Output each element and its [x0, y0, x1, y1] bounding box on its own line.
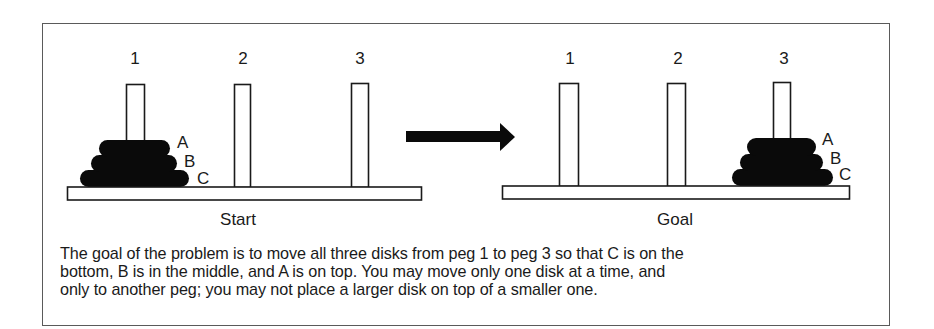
start-disk-label-a: A [177, 133, 189, 152]
start-peg-label-2: 2 [238, 49, 247, 68]
start-disk-a [99, 140, 170, 157]
goal-peg-1 [560, 84, 579, 187]
goal-peg-3 [774, 83, 791, 143]
start-peg-2 [235, 85, 251, 188]
goal-peg-2 [668, 84, 686, 187]
start-disk-b [91, 155, 177, 172]
start-panel: 1 2 3 A B C Start [68, 49, 422, 229]
goal-panel: 1 2 3 A B C Goal [503, 49, 852, 229]
caption-line-1: The goal of the problem is to move all t… [60, 244, 880, 262]
goal-peg-label-3: 3 [779, 49, 788, 68]
caption-line-2: bottom, B is in the middle, and A is on … [60, 262, 880, 280]
goal-base [503, 186, 850, 199]
goal-disk-a [747, 138, 816, 156]
start-peg-3 [352, 84, 369, 188]
start-peg-label-1: 1 [130, 49, 139, 68]
start-peg-label-3: 3 [355, 49, 364, 68]
goal-disk-c [732, 169, 833, 186]
goal-disk-label-a: A [822, 130, 834, 149]
figure-caption: The goal of the problem is to move all t… [60, 244, 880, 299]
goal-disk-b [740, 154, 823, 171]
goal-peg-label-2: 2 [673, 49, 682, 68]
start-disk-label-b: B [184, 152, 195, 171]
goal-label: Goal [657, 210, 693, 229]
start-disk-c [80, 170, 189, 187]
goal-disk-label-c: C [839, 165, 851, 184]
start-base [68, 187, 422, 200]
right-arrow-icon [406, 123, 515, 151]
caption-line-3: only to another peg; you may not place a… [60, 280, 880, 298]
goal-peg-label-1: 1 [565, 49, 574, 68]
start-peg-1 [127, 85, 145, 145]
start-disk-label-c: C [197, 169, 209, 188]
start-label: Start [220, 210, 256, 229]
